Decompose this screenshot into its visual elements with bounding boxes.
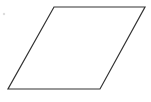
parallelogram-shape [8,7,145,89]
marker-dot [3,13,5,15]
diagram-canvas [0,0,151,102]
